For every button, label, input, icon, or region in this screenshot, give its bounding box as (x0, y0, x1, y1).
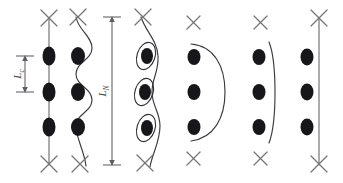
pin-site (188, 119, 201, 135)
pin-site (71, 83, 85, 101)
pin-site (188, 84, 201, 100)
cross-marker-bottom (254, 152, 267, 165)
panel-straight-depinned-line (301, 10, 328, 172)
pin-site (43, 47, 56, 66)
vortex-line-small-bow (269, 42, 275, 143)
cross-marker-top (254, 16, 267, 29)
pin-site (139, 84, 151, 100)
cross-marker-bottom (187, 152, 200, 165)
pin-site (253, 49, 266, 65)
figure-canvas: Lc LN (0, 0, 343, 183)
panel-straight-pinned-line: Lc (11, 10, 57, 172)
pin-site (253, 119, 266, 135)
dimension-label-ln-subscript: N (102, 84, 111, 91)
panel-looped-line (131, 9, 160, 171)
dimension-label-ln-text: L (96, 90, 108, 97)
pin-site (301, 49, 314, 66)
pin-site (188, 49, 201, 65)
cross-marker-top (187, 16, 200, 29)
pin-site (141, 48, 153, 64)
pin-site (301, 84, 314, 101)
panel-large-bow-depinned (187, 16, 225, 165)
pin-site (43, 83, 56, 102)
pin-site (141, 120, 153, 136)
dimension-label-ln: LN (96, 84, 111, 97)
dimension-label-lc: Lc (11, 69, 26, 80)
dimension-label-lc-subscript: c (17, 69, 26, 73)
dimension-label-lc-text: L (11, 73, 23, 80)
panel-serpentine-bowed-line: LN (70, 9, 121, 172)
pin-site (71, 118, 85, 136)
dimension-ln: LN (96, 16, 121, 166)
pin-site (253, 84, 266, 100)
pin-site (71, 47, 85, 65)
pin-site (301, 119, 314, 136)
vortex-pinning-figure: Lc LN (0, 0, 343, 183)
panel-small-bow-depinned (253, 16, 276, 165)
dimension-lc: Lc (11, 55, 34, 93)
pin-site (43, 118, 56, 137)
